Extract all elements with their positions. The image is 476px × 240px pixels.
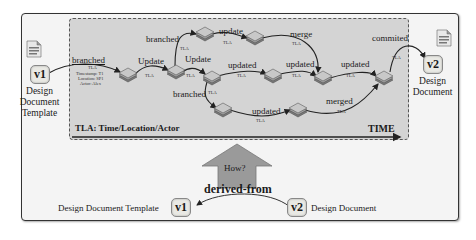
- tla-label: TLA: [145, 74, 154, 79]
- tla-label: TLA: [256, 119, 265, 124]
- version-node-v1[interactable]: v1: [30, 65, 50, 84]
- tla-label: TLA: [237, 74, 246, 79]
- tla-label: TLA: [392, 56, 401, 61]
- end-document-name: Design Document: [410, 76, 455, 98]
- edge-label: updated: [228, 61, 257, 70]
- edge-label: branched: [146, 35, 179, 44]
- edge-label: updated: [252, 107, 281, 116]
- tla-label: TLA: [88, 66, 97, 71]
- edge-label: branched: [173, 90, 206, 99]
- tla-label: TLA: [346, 74, 355, 79]
- name-line: Design: [17, 86, 62, 97]
- tla-label: TLA: [292, 74, 301, 79]
- edge-label: merge: [290, 30, 312, 39]
- tla-label: TLA: [337, 110, 346, 115]
- tla-label: TLA: [208, 91, 217, 96]
- tla-label: TLA: [292, 42, 301, 47]
- name-line: Document: [17, 97, 62, 108]
- tla-legend: TLA: Time/Location/Actor: [75, 124, 179, 133]
- tla-label: TLA: [180, 47, 189, 52]
- name-line: Design: [410, 76, 455, 87]
- name-line: Document: [410, 87, 455, 98]
- tla-label: TLA: [186, 74, 195, 79]
- edge-label: updated: [286, 60, 315, 69]
- document-icon: [27, 41, 41, 57]
- bottom-version-v2[interactable]: v2: [287, 198, 307, 217]
- edge-label: Update: [138, 57, 164, 66]
- how-arrow-label: How?: [224, 164, 246, 173]
- edge-label: Update: [185, 55, 211, 64]
- bottom-right-name: Design Document: [311, 204, 376, 213]
- edge-label: merged: [326, 97, 353, 106]
- start-document-name: Design Document Template: [17, 86, 62, 119]
- version-node-v2[interactable]: v2: [423, 55, 443, 74]
- derived-from-label: derived-from: [204, 183, 272, 195]
- name-line: Template: [17, 108, 62, 119]
- tla-label: TLA: [223, 41, 232, 46]
- bottom-left-name: Design Document Template: [58, 204, 159, 213]
- time-axis-label: TIME: [368, 124, 395, 134]
- edge-label: commited: [372, 34, 408, 43]
- tla-actor: Actor: Alex: [80, 82, 101, 87]
- edge-label: update: [219, 27, 243, 36]
- edge-label: updated: [341, 60, 370, 69]
- edge-label-branched: branched: [72, 56, 105, 65]
- bottom-version-v1[interactable]: v1: [171, 198, 191, 217]
